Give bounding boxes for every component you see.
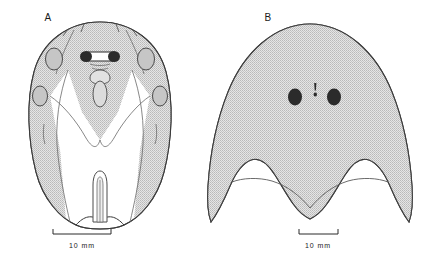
panel-b-shaded-region [200,14,420,234]
panel-a: A 10 mm [20,12,190,249]
panel-a-label: A [45,12,52,23]
panel-a-eye-left [80,51,92,62]
panel-a-lateral-spot-lower-right [153,86,168,106]
panel-a-lateral-spot-lower-left [33,86,48,106]
panel-b-eye-left [288,89,302,106]
panel-a-median-organ [93,81,107,107]
figure-canvas: A 10 mm B [0,0,437,255]
panel-a-eye-right [108,51,120,62]
panel-b-median-ocellus-lower [314,93,317,97]
panel-b-label: B [265,12,272,23]
panel-b-scale-label: 10 mm [305,242,331,249]
panel-a-lateral-spot-upper-left [46,48,63,70]
panel-b: B 10 mm [200,12,420,249]
figure-root: A 10 mm B [0,0,437,255]
panel-a-lateral-spot-upper-right [138,48,155,70]
panel-b-scale-bar [299,229,338,234]
panel-a-scale-label: 10 mm [69,242,95,249]
panel-a-scale-bar [53,229,111,234]
panel-b-eye-right [327,89,341,106]
